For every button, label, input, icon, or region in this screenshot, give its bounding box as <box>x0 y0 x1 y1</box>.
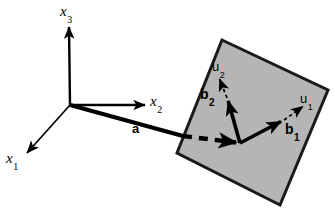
vector-a-line <box>70 105 183 136</box>
unit-vector-u1-label: u1 <box>300 90 312 109</box>
x3-label-sub: 3 <box>67 14 72 25</box>
x1-label-base: x <box>6 150 13 166</box>
x2-axis-label: x2 <box>150 93 162 112</box>
shaded-plane <box>177 40 328 205</box>
unit-vector-u2-label: u2 <box>212 58 224 77</box>
vector-a-label: a <box>132 120 139 136</box>
unit-vector-u2-label-sub: 2 <box>220 70 225 80</box>
x1-label-sub: 1 <box>13 161 18 172</box>
x1-axis-line <box>27 105 70 153</box>
vector-plane-diagram: x3 x2 x1 a b2 u2 b1 u1 <box>0 0 335 218</box>
x3-label-base: x <box>60 3 67 19</box>
x1-axis-label: x1 <box>6 150 18 169</box>
unit-vector-u2-label-base: u <box>212 59 219 74</box>
vector-a-label-base: a <box>132 121 139 136</box>
diagram-canvas <box>0 0 335 218</box>
vector-b1-label-sub: 1 <box>294 132 300 143</box>
x3-axis-label: x3 <box>60 3 72 22</box>
vector-b2-label-sub: 2 <box>209 97 215 108</box>
x2-label-base: x <box>150 93 157 109</box>
vector-b1-label-base: b <box>285 121 294 137</box>
vector-b1-label: b1 <box>285 121 299 140</box>
x3-axis-line <box>69 27 70 105</box>
vector-b2-label: b2 <box>200 86 214 105</box>
x2-label-sub: 2 <box>157 104 162 115</box>
unit-vector-u1-label-base: u <box>300 91 307 106</box>
unit-vector-u1-label-sub: 1 <box>308 102 313 112</box>
vector-b2-label-base: b <box>200 86 209 102</box>
